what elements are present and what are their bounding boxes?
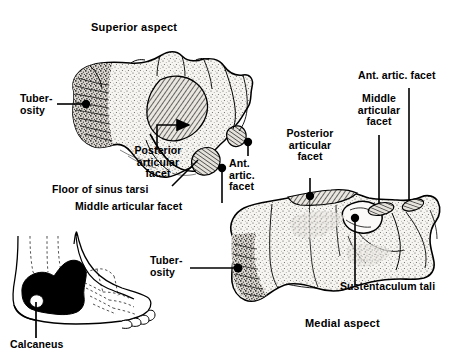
label-superior-tuberosity: Tuber- osity	[20, 93, 60, 116]
caption-medial-aspect: Medial aspect	[305, 317, 380, 329]
label-medial-middle-articular-facet: Middle articular facet	[340, 93, 418, 128]
label-superior-floor-of-sinus-tarsi: Floor of sinus tarsi	[52, 184, 182, 196]
label-inset-calcaneus: Calcaneus	[10, 339, 100, 351]
caption-superior-aspect: Superior aspect	[91, 21, 177, 33]
label-medial-ant-artic-facet: Ant. artic. facet	[358, 70, 457, 82]
label-medial-posterior-articular-facet: Posterior articular facet	[270, 128, 350, 163]
label-superior-ant-artic-facet: Ant. artic. facet	[229, 158, 271, 193]
label-superior-posterior-articular-facet: Posterior articular facet	[113, 145, 203, 180]
anatomy-figure-calcaneus: Superior aspect Tuber- osity Posterior a…	[0, 0, 457, 364]
label-superior-middle-articular-facet: Middle articular facet	[75, 201, 225, 213]
inset-foot-diagram	[13, 232, 155, 328]
label-medial-tuberosity: Tuber- osity	[150, 255, 194, 278]
label-sustentaculum-tali: Sustentaculum tali	[340, 281, 455, 293]
